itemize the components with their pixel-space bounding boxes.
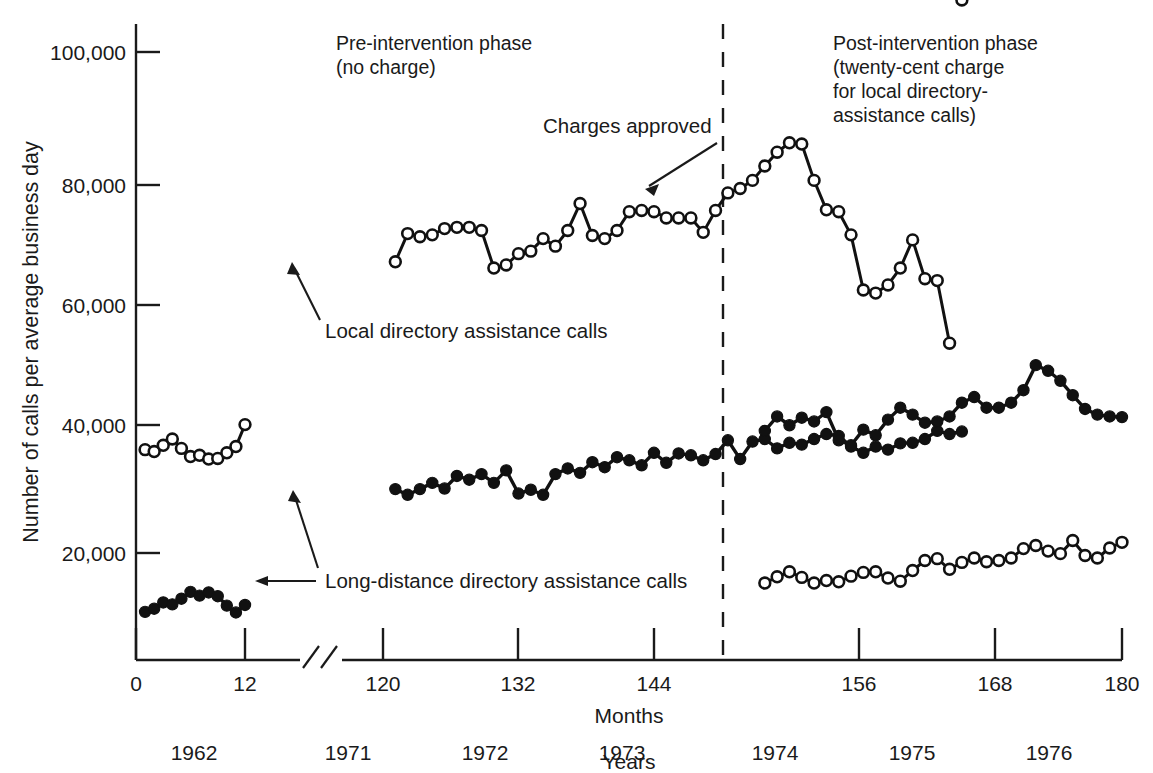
long-distance-directory-assistance-calls-post-point [845,440,856,451]
long-distance-directory-assistance-calls-seg-1-point [710,448,721,459]
long-distance-directory-assistance-calls-seg-1-point [476,468,487,479]
x-tick-label-12: 12 [233,672,256,695]
long-distance-directory-assistance-calls-seg-1-point [698,455,709,466]
local-directory-assistance-calls-seg-1-point [907,234,918,245]
local-directory-assistance-calls-post-point [944,564,955,575]
local-directory-assistance-calls-seg-1-point [858,285,869,296]
local-directory-assistance-calls-seg-1-point [624,206,635,217]
local-directory-assistance-calls-seg-1-point [415,231,426,242]
local-directory-assistance-calls-post-point [895,576,906,587]
local-directory-assistance-calls-seg-1-point [513,248,524,259]
local-directory-assistance-calls-seg-1-point [809,175,820,186]
local-directory-assistance-calls-seg-1-point [796,139,807,150]
local-directory-assistance-calls-seg-1-point [562,225,573,236]
local-directory-assistance-calls-seg-0-point [240,419,251,430]
local-directory-assistance-calls-post-point [870,566,881,577]
local-directory-assistance-calls-post-point [1043,546,1054,557]
year-label-1971: 1971 [325,741,372,764]
local-directory-assistance-calls-seg-1-point [488,263,499,274]
local-directory-assistance-calls-post-point [1055,548,1066,559]
local-directory-assistance-calls-seg-1-point [846,229,857,240]
local-directory-assistance-calls-seg-1-point [464,222,475,233]
long-distance-directory-assistance-calls-post-point [759,425,770,436]
long-distance-directory-assistance-calls-seg-1-point [956,426,967,437]
local-directory-assistance-calls-seg-1-point [550,241,561,252]
longdistance-series-label: Long-distance directory assistance calls [325,569,687,592]
x-tick-label-180: 180 [1104,672,1139,695]
long-distance-directory-assistance-calls-seg-1-point [722,435,733,446]
pre-phase-line-1: Pre-intervention phase [336,32,532,54]
local-directory-assistance-calls-seg-1-point [538,233,549,244]
local-directory-assistance-calls-seg-1-point [698,227,709,238]
post-phase-line-4: assistance calls) [833,104,976,126]
local-directory-assistance-calls-seg-1-point [895,263,906,274]
local-directory-assistance-calls-seg-1-point [686,213,697,224]
year-label-1974: 1974 [752,741,799,764]
local-directory-assistance-calls-seg-1-point [649,206,660,217]
long-distance-directory-assistance-calls-seg-1-point [735,453,746,464]
pre-phase-line-2: (no charge) [336,56,436,78]
local-directory-assistance-calls-seg-1-point [587,230,598,241]
long-distance-directory-assistance-calls-seg-1-point [427,477,438,488]
local-directory-assistance-calls-post-point [809,578,820,589]
long-distance-directory-assistance-calls-seg-1-point [402,489,413,500]
local-directory-assistance-calls-seg-1-point [821,204,832,215]
local-series-label: Local directory assistance calls [325,319,608,342]
local-directory-assistance-calls-seg-1-point [833,206,844,217]
long-distance-directory-assistance-calls-post-point [1030,360,1041,371]
long-distance-directory-assistance-calls-seg-1-point [895,438,906,449]
local-directory-assistance-calls-post-point [1092,553,1103,564]
long-distance-directory-assistance-calls-seg-0-point [212,591,223,602]
long-distance-directory-assistance-calls-post-point [1116,412,1127,423]
long-distance-directory-assistance-calls-seg-1-point [907,437,918,448]
long-distance-directory-assistance-calls-seg-1-point [870,441,881,452]
long-distance-directory-assistance-calls-post-point [956,397,967,408]
long-distance-directory-assistance-calls-post-point [784,420,795,431]
year-label-1975: 1975 [889,741,936,764]
x-tick-label-144: 144 [636,672,671,695]
local-directory-assistance-calls-seg-1-point [575,198,586,209]
long-distance-directory-assistance-calls-seg-1-point [464,474,475,485]
local-directory-assistance-calls-post-point [1006,553,1017,564]
post-phase-line-3: for local directory- [833,80,988,102]
long-distance-directory-assistance-calls-post-point [1043,365,1054,376]
y-axis-title: Number of calls per average business day [19,141,43,543]
local-directory-assistance-calls-seg-1-point [883,280,894,291]
local-directory-assistance-calls-seg-1-point [784,137,795,148]
x-tick-label-120: 120 [365,672,400,695]
local-directory-assistance-calls-seg-1-point [525,246,536,257]
local-directory-assistance-calls-seg-1-point [772,147,783,158]
charges-approved-label: Charges approved [543,114,712,137]
long-distance-directory-assistance-calls-post-point [944,411,955,422]
local-directory-assistance-calls-post-point [759,578,770,589]
long-distance-directory-assistance-calls-seg-1-point [587,457,598,468]
local-directory-assistance-calls-post-point [796,572,807,583]
local-directory-assistance-calls-post-point [784,566,795,577]
local-directory-assistance-calls-seg-1-point [501,260,512,271]
local-directory-assistance-calls-seg-1-point [920,273,931,284]
post-phase-line-2: (twenty-cent charge [833,56,1004,78]
local-directory-assistance-calls-post-point [858,567,869,578]
long-distance-directory-assistance-calls-seg-1-point [808,433,819,444]
long-distance-directory-assistance-calls-seg-1-point [784,437,795,448]
local-directory-assistance-calls-seg-0-point [167,434,178,445]
local-directory-assistance-calls-post-point [932,553,943,564]
long-distance-directory-assistance-calls-seg-1-point [525,484,536,495]
long-distance-directory-assistance-calls-seg-1-point [390,484,401,495]
long-distance-directory-assistance-calls-post-point [808,416,819,427]
y-tick-label-40000: 40,000 [62,414,126,437]
year-label-1962: 1962 [171,741,218,764]
long-distance-directory-assistance-calls-post-point [821,406,832,417]
y-tick-label-20000: 20,000 [62,542,126,565]
long-distance-directory-assistance-calls-post-point [1104,411,1115,422]
long-distance-directory-assistance-calls-seg-1-point [562,463,573,474]
x-tick-label-156: 156 [841,672,876,695]
local-directory-assistance-calls-post-point [1018,543,1029,554]
directory-assistance-calls-chart: 100,000 80,000 60,000 40,000 20,000 Numb… [0,0,1153,773]
local-directory-assistance-calls-seg-1-point [710,205,721,216]
local-directory-assistance-calls-post-point [883,573,894,584]
long-distance-directory-assistance-calls-post-point [981,402,992,413]
local-directory-assistance-calls-post-point [772,571,783,582]
long-distance-directory-assistance-calls-seg-1-point [611,452,622,463]
long-distance-directory-assistance-calls-post-point [870,430,881,441]
